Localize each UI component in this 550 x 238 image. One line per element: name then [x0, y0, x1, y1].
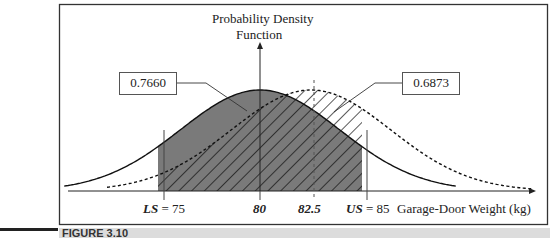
y-axis-label-line2: Function: [236, 27, 282, 43]
tick-us: US = 85: [346, 201, 389, 217]
tick-ls-prefix: LS: [143, 201, 158, 216]
tick-ls: LS = 75: [143, 201, 185, 217]
caption-text: FIGURE 3.10: [62, 228, 128, 238]
y-axis-label-line1: Probability Density: [212, 11, 313, 27]
figure: Probability Density Function 0.7660 0.68…: [0, 0, 550, 238]
callout-left: 0.7660: [119, 72, 177, 95]
caption-rule: [0, 228, 58, 231]
tick-ls-value: = 75: [158, 201, 185, 216]
tick-us-value: = 85: [363, 201, 390, 216]
caption-bar: FIGURE 3.10: [59, 228, 550, 238]
tick-mean1-label: 80: [253, 201, 266, 216]
tick-us-prefix: US: [346, 201, 363, 216]
tick-mean1: 80: [253, 201, 266, 217]
x-axis-label: Garage-Door Weight (kg): [397, 201, 531, 217]
callout-right: 0.6873: [402, 72, 460, 95]
tick-mean2: 82.5: [298, 201, 321, 217]
tick-mean2-label: 82.5: [298, 201, 321, 216]
